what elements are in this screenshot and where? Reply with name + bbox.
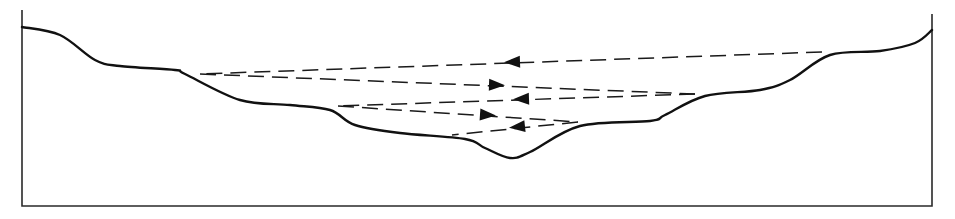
arrowhead-left-icon <box>513 93 529 105</box>
arrowhead-right-icon <box>480 109 496 121</box>
arrowhead-left-icon <box>504 56 520 68</box>
terrain-profile <box>22 27 932 158</box>
arrowhead-left-icon <box>509 120 526 132</box>
arrowheads <box>480 56 530 132</box>
ray-path-4 <box>338 106 578 122</box>
frame <box>22 10 932 206</box>
profile-diagram <box>0 0 955 219</box>
arrowhead-right-icon <box>489 79 505 91</box>
terrain-line <box>22 27 932 158</box>
frame-outline <box>22 10 932 206</box>
ray-path-2 <box>200 74 695 94</box>
